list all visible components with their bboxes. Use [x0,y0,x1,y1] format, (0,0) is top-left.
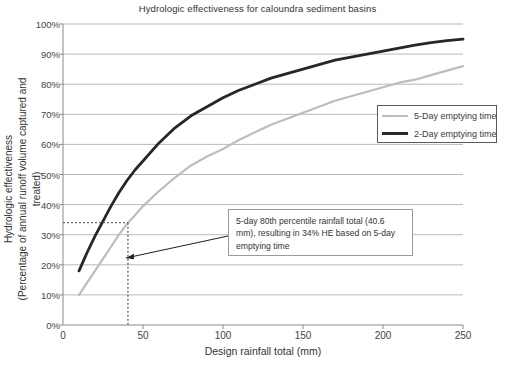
legend-label-2day: 2-Day emptying time [414,129,497,139]
series-line [79,66,463,295]
legend: 5-Day emptying time 2-Day emptying time [377,105,497,143]
legend-label-5day: 5-Day emptying time [414,111,497,121]
annotation-callout: 5-day 80th percentile rainfall total (40… [228,209,413,256]
annotation-line2: resulting in 34% HE based on 5-day [258,228,395,238]
legend-item-5day: 5-Day emptying time [382,107,497,124]
x-tick-marks [143,325,463,329]
plot-area [0,0,515,368]
legend-item-2day: 2-Day emptying time [382,125,497,142]
legend-line-5day-icon [382,115,408,117]
hydrologic-effectiveness-chart: Hydrologic effectiveness for caloundra s… [0,0,515,368]
annotation-leader-arrow [126,236,228,259]
data-series [79,39,463,295]
y-tick-marks [59,24,63,325]
legend-line-2day-icon [382,132,408,135]
annotation-line3: emptying time [236,241,290,251]
